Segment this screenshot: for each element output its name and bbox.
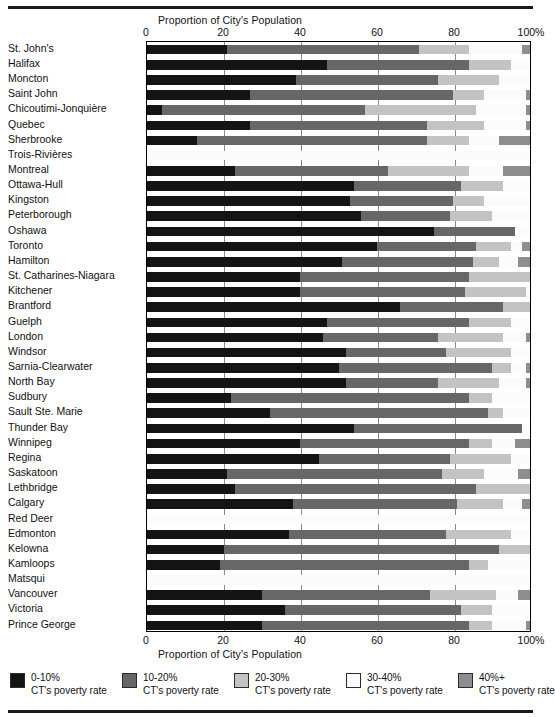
bar-segment	[515, 227, 530, 237]
bar-segment	[147, 575, 530, 585]
top-rule	[8, 6, 533, 9]
legend-range: 20-30%	[255, 672, 331, 685]
bar-segment	[235, 166, 388, 176]
x-tick-label: 40	[294, 26, 306, 38]
bar-row	[147, 590, 530, 600]
bar-row	[147, 424, 530, 434]
bar-row	[147, 469, 530, 479]
bar-segment	[457, 499, 503, 509]
bar-segment	[430, 590, 495, 600]
legend-item[interactable]: 20-30%CT's poverty rate	[234, 672, 331, 697]
bar-segment	[346, 378, 438, 388]
legend-item[interactable]: 0-10%CT's poverty rate	[10, 672, 107, 697]
category-label: Peterborough	[8, 209, 134, 220]
bar-segment	[484, 121, 526, 131]
category-label: Halifax	[8, 58, 134, 69]
legend-swatch-icon	[234, 673, 249, 688]
x-axis-title-bottom: Proportion of City's Population	[158, 648, 302, 660]
legend-item[interactable]: 30-40%CT's poverty rate	[346, 672, 443, 697]
bar-segment	[522, 45, 530, 55]
x-tick-label: 0	[143, 634, 149, 646]
category-label: Saskatoon	[8, 467, 134, 478]
bar-row	[147, 605, 530, 615]
bar-segment	[438, 333, 503, 343]
legend-label: 40%+CT's poverty rate	[479, 672, 555, 697]
plot-area	[146, 41, 531, 632]
legend-label: 30-40%CT's poverty rate	[367, 672, 443, 697]
legend-item[interactable]: 40%+CT's poverty rate	[458, 672, 555, 697]
x-tick-label: 40	[294, 634, 306, 646]
bar-segment	[147, 560, 220, 570]
bar-segment	[147, 363, 339, 373]
bar-segment	[270, 408, 488, 418]
x-tick-label: 100%	[518, 26, 545, 38]
bar-segment	[147, 242, 377, 252]
category-label: Matsqui	[8, 573, 134, 584]
bar-segment	[492, 363, 511, 373]
bar-segment	[488, 408, 503, 418]
bar-segment	[262, 590, 431, 600]
bar-segment	[438, 75, 499, 85]
category-label: Saint John	[8, 88, 134, 99]
legend-label: 10-20%CT's poverty rate	[143, 672, 219, 697]
bar-row	[147, 393, 530, 403]
bar-segment	[162, 105, 365, 115]
bar-segment	[503, 166, 530, 176]
legend-label: 20-30%CT's poverty rate	[255, 672, 331, 697]
bar-segment	[496, 590, 519, 600]
bar-segment	[147, 105, 162, 115]
legend-swatch-icon	[458, 673, 473, 688]
bar-segment	[503, 181, 530, 191]
bar-segment	[147, 90, 250, 100]
bar-segment	[147, 545, 224, 555]
bar-segment	[526, 90, 530, 100]
bar-segment	[446, 348, 511, 358]
bar-segment	[289, 530, 446, 540]
bar-row	[147, 90, 530, 100]
bar-segment	[285, 605, 461, 615]
bar-segment	[147, 75, 296, 85]
bar-row	[147, 181, 530, 191]
bar-segment	[511, 454, 530, 464]
bar-segment	[442, 469, 484, 479]
bar-segment	[484, 196, 530, 206]
bar-segment	[365, 105, 476, 115]
bar-rows	[147, 42, 530, 631]
category-label: Sarnia-Clearwater	[8, 361, 134, 372]
category-label: Trois-Rivières	[8, 149, 134, 160]
category-label: North Bay	[8, 376, 134, 387]
bar-segment	[522, 424, 530, 434]
bar-segment	[323, 333, 438, 343]
bar-row	[147, 439, 530, 449]
bar-row	[147, 545, 530, 555]
x-axis-title-top: Proportion of City's Population	[158, 14, 302, 26]
bar-segment	[476, 105, 526, 115]
bar-segment	[147, 408, 270, 418]
bar-segment	[503, 333, 526, 343]
bar-segment	[250, 90, 453, 100]
bar-segment	[350, 196, 453, 206]
bar-segment	[231, 393, 468, 403]
x-axis-ticks-bottom: 020406080100%	[0, 634, 541, 647]
bar-segment	[518, 469, 529, 479]
bar-segment	[147, 530, 289, 540]
x-tick-label: 20	[217, 634, 229, 646]
bar-segment	[511, 60, 530, 70]
category-label: Kitchener	[8, 285, 134, 296]
bar-row	[147, 242, 530, 252]
legend-swatch-icon	[346, 673, 361, 688]
category-label: Vancouver	[8, 588, 134, 599]
category-label: Edmonton	[8, 528, 134, 539]
bar-row	[147, 515, 530, 525]
bar-segment	[147, 60, 327, 70]
bar-segment	[492, 605, 530, 615]
bar-segment	[354, 424, 523, 434]
bar-row	[147, 121, 530, 131]
bar-segment	[300, 272, 469, 282]
bar-row	[147, 575, 530, 585]
bar-segment	[488, 560, 530, 570]
bar-segment	[503, 302, 530, 312]
category-label: Sherbrooke	[8, 134, 134, 145]
category-label: Kingston	[8, 194, 134, 205]
legend-item[interactable]: 10-20%CT's poverty rate	[122, 672, 219, 697]
